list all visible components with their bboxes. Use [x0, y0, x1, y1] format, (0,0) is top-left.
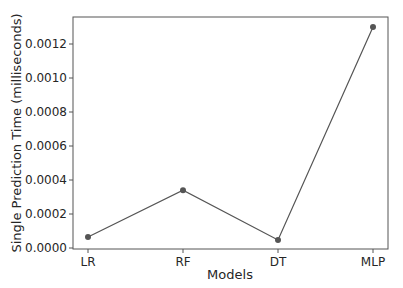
data-point-marker: [275, 237, 281, 243]
y-tick-label: 0.0012: [25, 37, 67, 51]
y-tick-label: 0.0006: [25, 139, 67, 153]
data-markers: [85, 24, 376, 243]
y-tick-label: 0.0004: [25, 173, 67, 187]
data-point-marker: [180, 187, 186, 193]
x-axis-ticks: LRRFDTMLP: [80, 249, 385, 269]
y-tick-label: 0.0000: [25, 241, 67, 255]
data-point-marker: [85, 234, 91, 240]
series-line: [88, 27, 373, 240]
plot-frame: [73, 17, 388, 249]
x-tick-label: MLP: [361, 255, 385, 269]
y-tick-label: 0.0008: [25, 105, 67, 119]
x-tick-label: LR: [80, 255, 95, 269]
x-axis-label: Models: [207, 267, 253, 282]
x-tick-label: RF: [175, 255, 190, 269]
data-point-marker: [370, 24, 376, 30]
y-axis-ticks: 0.00000.00020.00040.00060.00080.00100.00…: [25, 37, 73, 255]
y-axis-label: Single Prediction Time (milliseconds): [9, 13, 24, 252]
x-tick-label: DT: [270, 255, 287, 269]
y-tick-label: 0.0010: [25, 71, 67, 85]
y-tick-label: 0.0002: [25, 207, 67, 221]
chart: 0.00000.00020.00040.00060.00080.00100.00…: [0, 0, 403, 288]
